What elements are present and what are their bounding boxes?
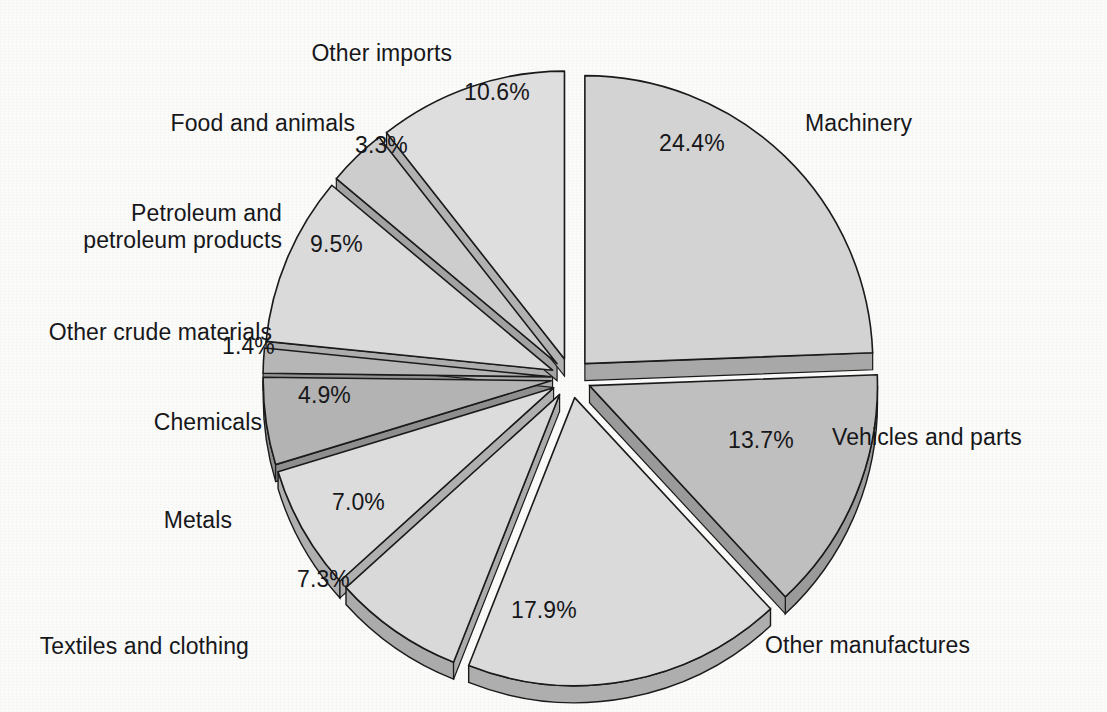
slice-value-other-imports: 10.6% bbox=[464, 79, 530, 105]
slice-value-vehicles-and-parts: 13.7% bbox=[728, 427, 794, 453]
slice-label-petroleum-line1: Petroleum and bbox=[30, 200, 282, 227]
slice-label-textiles-and-clothing: Textiles and clothing bbox=[8, 633, 249, 660]
slice-label-machinery: Machinery bbox=[805, 110, 912, 137]
slice-label-petroleum-line2: petroleum products bbox=[30, 227, 282, 254]
slice-value-chemicals: 4.9% bbox=[298, 382, 351, 408]
slice-label-chemicals: Chemicals bbox=[40, 409, 262, 436]
slice-value-petroleum: 9.5% bbox=[310, 231, 363, 257]
slice-value-other-crude-materials: 1.4% bbox=[222, 333, 275, 359]
pie-chart-page: Machinery Vehicles and parts Other manuf… bbox=[0, 0, 1107, 712]
slice-value-food-and-animals: 3.3% bbox=[355, 132, 408, 158]
slice-label-other-imports: Other imports bbox=[120, 40, 452, 67]
slice-value-textiles-and-clothing: 7.3% bbox=[297, 566, 350, 592]
slice-label-vehicles-and-parts: Vehicles and parts bbox=[832, 424, 1022, 451]
slice-label-metals: Metals bbox=[60, 507, 232, 534]
slice-value-metals: 7.0% bbox=[332, 489, 385, 515]
slice-value-machinery: 24.4% bbox=[659, 130, 725, 156]
slice-label-food-and-animals: Food and animals bbox=[60, 110, 355, 137]
slice-label-other-manufactures: Other manufactures bbox=[765, 632, 970, 659]
slice-value-other-manufactures: 17.9% bbox=[511, 597, 577, 623]
